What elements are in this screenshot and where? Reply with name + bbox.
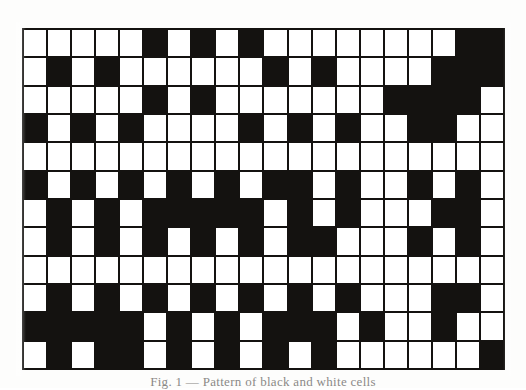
grid-cell — [96, 313, 118, 339]
grid-cell — [96, 30, 118, 56]
grid-cell — [433, 58, 455, 84]
grid-cell — [433, 172, 455, 198]
grid-cell — [72, 313, 94, 339]
grid-cell — [361, 172, 383, 198]
grid-cell — [289, 143, 311, 169]
grid-cell — [289, 313, 311, 339]
grid-cell — [144, 172, 166, 198]
grid-cell — [96, 172, 118, 198]
grid-cell — [120, 143, 142, 169]
grid-cell — [264, 58, 286, 84]
grid-cell — [240, 342, 262, 368]
grid-cell — [264, 200, 286, 226]
grid-cell — [168, 58, 190, 84]
grid-cell — [48, 87, 70, 113]
grid-cell — [240, 115, 262, 141]
grid-cell — [264, 228, 286, 254]
grid-cell — [409, 313, 431, 339]
grid-cell — [289, 200, 311, 226]
grid-cell — [120, 342, 142, 368]
grid-cell — [481, 143, 503, 169]
grid-cell — [337, 200, 359, 226]
grid-cell — [72, 115, 94, 141]
grid-cell — [120, 257, 142, 283]
grid-cell — [264, 87, 286, 113]
grid-cell — [481, 58, 503, 84]
grid-cell — [192, 313, 214, 339]
grid-cell — [144, 285, 166, 311]
grid-cell — [192, 115, 214, 141]
grid-cell — [337, 172, 359, 198]
grid-cell — [457, 30, 479, 56]
grid-cell — [264, 30, 286, 56]
grid-cell — [192, 87, 214, 113]
grid-cell — [433, 285, 455, 311]
grid-cell — [361, 342, 383, 368]
grid-cell — [481, 172, 503, 198]
grid-cell — [385, 87, 407, 113]
grid-cell — [481, 342, 503, 368]
grid-cell — [385, 313, 407, 339]
grid-cell — [240, 30, 262, 56]
grid-cell — [120, 58, 142, 84]
grid-cell — [216, 285, 238, 311]
grid-cell — [168, 257, 190, 283]
grid-cell — [385, 58, 407, 84]
grid-cell — [313, 228, 335, 254]
grid-cell — [24, 143, 46, 169]
grid-cell — [96, 115, 118, 141]
grid-cell — [48, 115, 70, 141]
grid-cell — [433, 87, 455, 113]
grid-cell — [216, 257, 238, 283]
grid-cell — [385, 200, 407, 226]
grid-cell — [385, 172, 407, 198]
grid-cell — [481, 257, 503, 283]
grid-cell — [168, 172, 190, 198]
grid-cell — [72, 228, 94, 254]
grid-cell — [481, 313, 503, 339]
grid-cell — [48, 200, 70, 226]
grid-cell — [361, 87, 383, 113]
grid-cell — [337, 30, 359, 56]
grid-cell — [409, 200, 431, 226]
grid-cell — [144, 200, 166, 226]
grid-cell — [289, 172, 311, 198]
grid-cell — [144, 58, 166, 84]
grid-cell — [216, 228, 238, 254]
grid-cell — [120, 200, 142, 226]
grid-cell — [24, 200, 46, 226]
figure-caption: Fig. 1 — Pattern of black and white cell… — [0, 374, 526, 390]
grid-cell — [24, 342, 46, 368]
grid-cell — [385, 30, 407, 56]
grid-cell — [24, 313, 46, 339]
grid-cell — [457, 285, 479, 311]
grid-cell — [313, 342, 335, 368]
grid-cell — [361, 257, 383, 283]
grid-cell — [289, 30, 311, 56]
grid-cell — [72, 200, 94, 226]
grid-cell — [481, 87, 503, 113]
grid-cell — [96, 228, 118, 254]
grid-cell — [144, 30, 166, 56]
grid-cell — [409, 228, 431, 254]
grid-cell — [24, 30, 46, 56]
grid-cell — [168, 30, 190, 56]
grid-cell — [168, 285, 190, 311]
grid-cell — [409, 285, 431, 311]
grid-cell — [289, 58, 311, 84]
grid-cell — [72, 257, 94, 283]
grid-cell — [337, 285, 359, 311]
grid-cell — [144, 87, 166, 113]
grid-cell — [313, 30, 335, 56]
grid-cell — [409, 342, 431, 368]
grid-cell — [313, 172, 335, 198]
grid-cell — [409, 172, 431, 198]
grid-cell — [289, 115, 311, 141]
grid-cell — [289, 342, 311, 368]
grid-cell — [216, 30, 238, 56]
grid-cell — [457, 172, 479, 198]
grid-cell — [72, 172, 94, 198]
grid-cell — [168, 313, 190, 339]
grid-cell — [361, 313, 383, 339]
grid-cell — [409, 58, 431, 84]
